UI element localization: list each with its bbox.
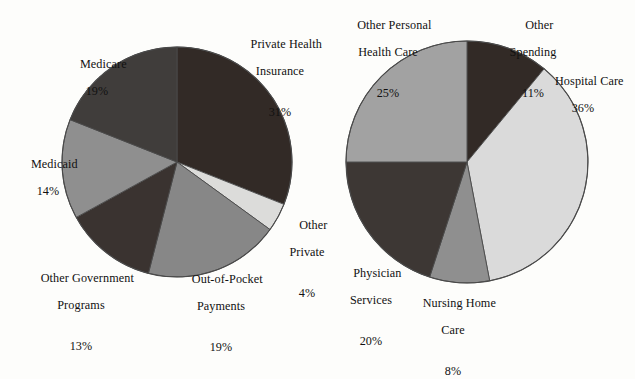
slice-label-nursing-home-care-line2: Care — [400, 324, 506, 338]
slice-label-other-government-programs: Other Government Programs 13% — [18, 258, 144, 379]
slice-label-medicare-pct: 19% — [42, 85, 152, 99]
slice-label-other-personal-health-care-pct: 25% — [330, 87, 446, 101]
slice-label-other-personal-health-care-line2: Health Care — [330, 46, 446, 60]
slice-label-hospital-care-name: Hospital Care — [555, 74, 624, 88]
slice-label-other-government-programs-line1: Other Government — [41, 271, 134, 285]
slice-label-physician-services-line2: Services — [330, 294, 412, 308]
slice-label-medicare-name: Medicare — [80, 57, 127, 71]
slice-label-out-of-pocket-payments-pct: 19% — [160, 341, 282, 355]
slice-label-other-private-pct: 4% — [279, 287, 335, 301]
slice-label-hospital-care-pct: 36% — [533, 102, 633, 116]
slice-label-physician-services-line1: Physician — [353, 266, 401, 280]
slice-label-other-spending-line1: Other — [525, 18, 553, 32]
slice-label-other-private-line2: Private — [279, 246, 335, 260]
slice-label-other-personal-health-care-line1: Other Personal — [357, 18, 431, 32]
slice-label-medicaid-pct: 14% — [2, 185, 94, 199]
slice-label-other-government-programs-pct: 13% — [18, 340, 144, 354]
slice-label-other-private-line1: Other — [299, 218, 327, 232]
slice-label-other-spending-line2: Spending — [490, 46, 576, 60]
slice-label-hospital-care: Hospital Care 36% — [533, 61, 633, 143]
slice-label-out-of-pocket-payments-line1: Out-of-Pocket — [192, 272, 263, 286]
slice-label-physician-services: Physician Services 20% — [330, 253, 412, 375]
slice-label-other-private: Other Private 4% — [279, 205, 335, 327]
slice-label-nursing-home-care-line1: Nursing Home — [423, 296, 496, 310]
slice-label-physician-services-pct: 20% — [330, 335, 412, 349]
slice-label-private-health-insurance: Private Health Insurance 31% — [222, 24, 338, 146]
slice-label-private-health-insurance-line2: Insurance — [222, 65, 338, 79]
slice-label-nursing-home-care-pct: 8% — [400, 365, 506, 379]
slice-label-out-of-pocket-payments-line2: Payments — [160, 300, 282, 314]
slice-label-out-of-pocket-payments: Out-of-Pocket Payments 19% — [160, 259, 282, 379]
slice-label-medicaid: Medicaid 14% — [2, 144, 94, 226]
slice-label-private-health-insurance-pct: 31% — [222, 106, 338, 120]
slice-label-nursing-home-care: Nursing Home Care 8% — [400, 283, 506, 379]
slice-label-medicare: Medicare 19% — [42, 44, 152, 126]
slice-label-other-personal-health-care: Other Personal Health Care 25% — [330, 5, 446, 127]
slice-label-medicaid-name: Medicaid — [31, 157, 78, 171]
slice-label-private-health-insurance-line1: Private Health — [251, 37, 322, 51]
slice-label-other-government-programs-line2: Programs — [18, 299, 144, 313]
